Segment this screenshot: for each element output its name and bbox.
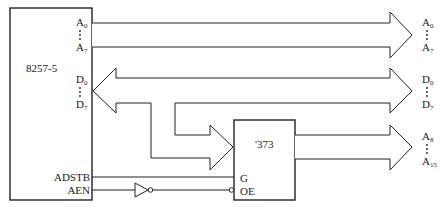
out-a8-label: A8 (422, 130, 434, 144)
ellipsis-dot (426, 34, 428, 36)
out-a7-label: A7 (422, 41, 434, 55)
ellipsis-dot (426, 91, 428, 93)
address-low-bus-arrow (92, 12, 412, 58)
latch-chip-label: '373 (255, 138, 274, 150)
ellipsis-dot (426, 144, 428, 146)
ellipsis-dot (79, 91, 81, 93)
ellipsis-dot (426, 38, 428, 40)
ellipsis-dot (79, 87, 81, 89)
out-a15-label: A15 (422, 155, 437, 169)
out-d0-label: D0 (422, 73, 434, 87)
ellipsis-dot (426, 30, 428, 32)
pin-aen-label: AEN (67, 184, 90, 196)
ellipsis-dot (426, 152, 428, 154)
ellipsis-dot (79, 95, 81, 97)
dma-address-latch-diagram: 8257-5 A0 A7 D0 D7 ADSTB AEN '373 G OE (0, 0, 445, 207)
ellipsis-dot (426, 95, 428, 97)
inverter-gate-icon (135, 183, 148, 197)
pin-g-label: G (240, 172, 248, 184)
pin-adstb-label: ADSTB (54, 171, 90, 183)
out-a0-label: A0 (422, 16, 434, 30)
ellipsis-dot (79, 34, 81, 36)
address-high-bus-arrow (295, 125, 412, 170)
dma-chip-8257: 8257-5 A0 A7 D0 D7 ADSTB AEN (10, 8, 92, 200)
ellipsis-dot (79, 38, 81, 40)
oe-active-low-bubble-icon (229, 188, 234, 193)
pin-oe-label: OE (240, 185, 255, 197)
dma-chip-label: 8257-5 (26, 62, 58, 74)
latch-chip-373: '373 G OE (234, 120, 295, 200)
ellipsis-dot (426, 148, 428, 150)
ellipsis-dot (79, 30, 81, 32)
inverter-bubble-icon (148, 188, 153, 193)
out-d7-label: D7 (422, 98, 434, 112)
output-labels: A0 A7 D0 D7 A8 A15 (422, 16, 437, 169)
ellipsis-dot (426, 87, 428, 89)
